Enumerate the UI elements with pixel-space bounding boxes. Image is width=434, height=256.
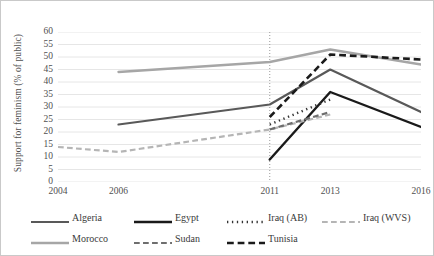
legend-label: Tunisia: [268, 233, 298, 244]
y-tick-label: 25: [23, 115, 53, 125]
legend-item-iraq-wvs[interactable]: Iraq (WVS): [322, 212, 410, 223]
y-tick-label: 15: [23, 140, 53, 150]
legend-item-egypt[interactable]: Egypt: [134, 212, 199, 223]
y-tick-label: 50: [23, 52, 53, 62]
y-tick-label: 60: [23, 27, 53, 37]
x-tick-label: 2011: [260, 186, 279, 196]
y-tick-label: 55: [23, 40, 53, 50]
y-axis-tick-labels: 051015202530354045505560: [21, 32, 53, 182]
y-tick-label: 20: [23, 127, 53, 137]
legend-swatch: [134, 213, 172, 223]
y-tick-label: 40: [23, 77, 53, 87]
series-lines: [58, 50, 421, 160]
chart-legend: AlgeriaEgyptIraq (AB)Iraq (WVS)MoroccoSu…: [31, 207, 429, 249]
legend-label: Morocco: [72, 233, 108, 244]
series-line-tunisia: [270, 55, 421, 118]
legend-swatch: [31, 234, 69, 244]
legend-label: Iraq (WVS): [363, 212, 410, 223]
y-tick-label: 30: [23, 102, 53, 112]
chart-svg: [58, 32, 421, 182]
legend-label: Algeria: [72, 212, 102, 223]
legend-item-algeria[interactable]: Algeria: [31, 212, 102, 223]
legend-item-tunisia[interactable]: Tunisia: [227, 233, 298, 244]
legend-swatch: [31, 213, 69, 223]
y-tick-label: 35: [23, 90, 53, 100]
legend-item-iraq-ab[interactable]: Iraq (AB): [227, 212, 307, 223]
legend-row: MoroccoSudanTunisia: [31, 228, 429, 249]
legend-label: Iraq (AB): [268, 212, 307, 223]
series-line-iraq-wvs: [58, 115, 330, 153]
x-tick-label: 2004: [49, 186, 68, 196]
chart-figure: Support for feminism (% of public) 05101…: [0, 0, 434, 256]
y-tick-label: 10: [23, 152, 53, 162]
x-tick-label: 2016: [412, 186, 431, 196]
plot-area: [58, 32, 421, 182]
y-tick-label: 5: [23, 165, 53, 175]
x-tick-label: 2013: [321, 186, 340, 196]
legend-swatch: [322, 213, 360, 223]
legend-swatch: [227, 213, 265, 223]
y-tick-label: 45: [23, 65, 53, 75]
legend-label: Sudan: [175, 233, 200, 244]
legend-swatch: [134, 234, 172, 244]
x-axis-tick-labels: 20042006201120132016: [1, 186, 434, 200]
legend-swatch: [227, 234, 265, 244]
x-tick-label: 2006: [109, 186, 128, 196]
legend-item-sudan[interactable]: Sudan: [134, 233, 200, 244]
legend-row: AlgeriaEgyptIraq (AB)Iraq (WVS): [31, 207, 429, 228]
legend-item-morocco[interactable]: Morocco: [31, 233, 108, 244]
legend-label: Egypt: [175, 212, 199, 223]
